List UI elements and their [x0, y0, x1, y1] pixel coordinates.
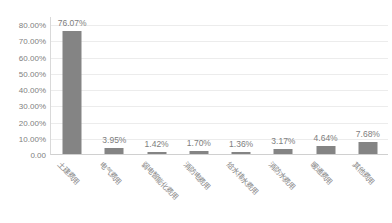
y-axis-tick-label: 0.00 — [0, 151, 46, 160]
y-axis-tick-label: 50.00% — [0, 69, 46, 78]
bar-slot: 1.36% — [220, 17, 262, 154]
bar-slot: 7.68% — [347, 17, 389, 154]
bar — [274, 149, 293, 154]
bar — [316, 146, 335, 154]
bar — [105, 148, 124, 154]
plot-area: 76.07%3.95%1.42%1.70%1.36%3.17%4.64%7.68… — [50, 17, 388, 155]
bar — [358, 142, 377, 154]
bar-slot: 1.42% — [136, 17, 178, 154]
bar — [63, 31, 82, 155]
y-axis-tick-label: 40.00% — [0, 86, 46, 95]
bar — [189, 151, 208, 154]
x-axis-category-label: 电气费用 — [97, 159, 125, 187]
bar-slot: 1.70% — [178, 17, 220, 154]
y-axis-tick-label: 10.00% — [0, 134, 46, 143]
bar-value-label: 1.70% — [187, 138, 211, 148]
x-axis-category-label: 土建费用 — [55, 159, 83, 187]
x-axis-category-label: 其他费用 — [351, 159, 379, 187]
bar-slot: 3.95% — [93, 17, 135, 154]
y-axis-tick-label: 20.00% — [0, 118, 46, 127]
y-axis-tick-label: 70.00% — [0, 37, 46, 46]
x-axis-category-label: 消防水费用 — [266, 159, 299, 192]
x-axis-category-label: 给水排水费用 — [224, 159, 261, 196]
bar-slot: 76.07% — [51, 17, 93, 154]
bar — [232, 152, 251, 154]
y-axis-tick-label: 30.00% — [0, 102, 46, 111]
bar-value-label: 3.95% — [102, 135, 126, 145]
bar-value-label: 7.68% — [356, 129, 380, 139]
y-axis-tick-label: 80.00% — [0, 21, 46, 30]
bar-chart: 0.0010.00%20.00%30.00%40.00%50.00%60.00%… — [0, 0, 392, 223]
y-axis-tick-label: 60.00% — [0, 53, 46, 62]
x-axis-category-label: 暖通费用 — [308, 159, 336, 187]
bar — [147, 152, 166, 154]
bar-value-label: 1.42% — [145, 139, 169, 149]
bar-value-label: 3.17% — [271, 136, 295, 146]
bar-value-label: 76.07% — [58, 18, 87, 28]
bar-value-label: 4.64% — [314, 133, 338, 143]
bar-slot: 3.17% — [262, 17, 304, 154]
bar-slot: 4.64% — [305, 17, 347, 154]
bar-value-label: 1.36% — [229, 139, 253, 149]
x-axis-category-label: 弱电智能化费用 — [139, 159, 181, 201]
x-axis-category-label: 消防电费用 — [182, 159, 215, 192]
